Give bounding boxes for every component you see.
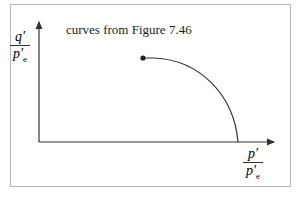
curve-start-point <box>140 55 145 60</box>
y-label-numerator: q′ <box>10 30 30 44</box>
y-label-denominator: p′e <box>10 47 30 66</box>
diagram-title: curves from Figure 7.46 <box>66 22 192 38</box>
y-axis-label: q′ p′e <box>10 30 30 66</box>
yield-curve <box>143 58 238 142</box>
x-axis-label: p′ p′e <box>243 147 263 183</box>
x-label-denominator: p′e <box>243 164 263 183</box>
x-label-numerator: p′ <box>243 147 263 161</box>
